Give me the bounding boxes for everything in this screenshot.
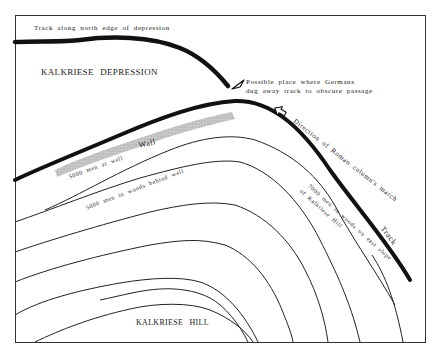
north-track-label: Track along north edge of depression xyxy=(34,25,170,32)
depression-label: KALKRIESE DEPRESSION xyxy=(41,68,158,77)
north-track-line xyxy=(15,38,228,86)
possible-place-label-line1: Possible place where Germans xyxy=(246,79,355,86)
hill-label: KALKRIESE HILL xyxy=(136,319,209,327)
main-track-line xyxy=(15,101,410,280)
contour-line-5 xyxy=(15,278,258,342)
possible-place-label-line2: dug away track to obscure passage xyxy=(246,88,373,95)
hollow-triangle-pointer-icon xyxy=(232,80,244,89)
contour-line-8 xyxy=(372,255,403,342)
